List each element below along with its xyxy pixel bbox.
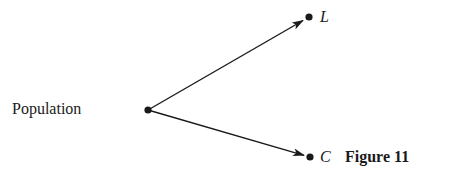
node-label-population: Population xyxy=(12,101,81,117)
edge-population-to-l xyxy=(148,21,303,111)
node-dot-c xyxy=(306,153,313,160)
node-label-c: C xyxy=(320,149,331,165)
node-label-l: L xyxy=(320,9,329,25)
edge-population-to-c xyxy=(148,110,304,155)
node-dot-population xyxy=(144,106,151,113)
node-dot-l xyxy=(305,13,312,20)
figure-caption: Figure 11 xyxy=(345,149,409,165)
